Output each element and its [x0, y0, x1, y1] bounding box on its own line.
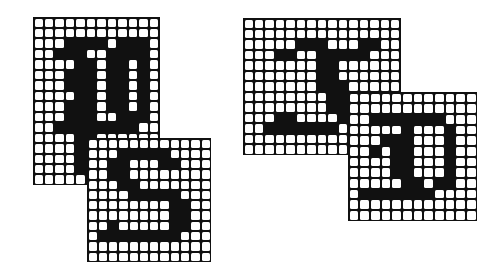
empty-cell: [35, 102, 43, 110]
empty-cell: [307, 114, 315, 122]
empty-cell: [297, 72, 305, 80]
ink-cell: [370, 189, 381, 200]
empty-cell: [99, 253, 107, 261]
empty-cell: [318, 114, 326, 122]
empty-cell: [371, 200, 380, 209]
ink-cell: [107, 91, 117, 101]
ink-cell: [445, 125, 456, 136]
ink-cell: [317, 39, 327, 49]
empty-cell: [265, 72, 273, 80]
empty-cell: [45, 175, 53, 183]
empty-cell: [150, 60, 158, 68]
ink-cell: [138, 112, 148, 122]
empty-cell: [129, 102, 137, 110]
empty-cell: [286, 72, 294, 80]
empty-cell: [35, 144, 43, 152]
empty-cell: [391, 61, 399, 69]
empty-cell: [55, 60, 63, 68]
empty-cell: [255, 72, 263, 80]
empty-cell: [349, 72, 357, 80]
empty-cell: [276, 61, 284, 69]
empty-cell: [391, 51, 399, 59]
empty-cell: [446, 94, 455, 103]
empty-cell: [89, 201, 97, 209]
empty-cell: [119, 222, 127, 230]
ink-cell: [117, 112, 127, 122]
ink-cell: [86, 101, 96, 111]
empty-cell: [45, 155, 53, 163]
empty-cell: [307, 103, 315, 111]
ink-cell: [138, 70, 148, 80]
empty-cell: [297, 145, 305, 153]
empty-cell: [318, 145, 326, 153]
empty-cell: [414, 104, 423, 113]
empty-cell: [76, 175, 84, 183]
ink-cell: [413, 189, 424, 200]
empty-cell: [276, 30, 284, 38]
empty-cell: [307, 145, 315, 153]
empty-cell: [297, 82, 305, 90]
empty-cell: [150, 222, 158, 230]
empty-cell: [255, 135, 263, 143]
empty-cell: [202, 160, 210, 168]
ink-cell: [402, 167, 413, 178]
empty-cell: [139, 123, 147, 131]
ink-cell: [86, 112, 96, 122]
empty-cell: [99, 140, 107, 148]
ink-cell: [75, 154, 85, 164]
empty-cell: [191, 201, 199, 209]
empty-cell: [297, 135, 305, 143]
empty-cell: [150, 19, 158, 27]
ink-cell: [65, 112, 75, 122]
empty-cell: [99, 150, 107, 158]
ink-cell: [138, 91, 148, 101]
ink-cell: [338, 113, 348, 123]
empty-cell: [160, 181, 168, 189]
empty-cell: [35, 175, 43, 183]
empty-cell: [45, 102, 53, 110]
ink-cell: [327, 92, 337, 102]
empty-cell: [297, 61, 305, 69]
ink-cell: [159, 231, 169, 241]
empty-cell: [66, 144, 74, 152]
empty-cell: [55, 29, 63, 37]
ink-cell: [75, 101, 85, 111]
ink-cell: [128, 112, 138, 122]
empty-cell: [139, 29, 147, 37]
ink-cell: [117, 91, 127, 101]
empty-cell: [382, 158, 391, 167]
empty-cell: [318, 93, 326, 101]
empty-cell: [118, 29, 126, 37]
empty-cell: [45, 60, 53, 68]
empty-cell: [424, 126, 433, 135]
empty-cell: [360, 179, 369, 188]
ink-cell: [159, 190, 169, 200]
empty-cell: [255, 40, 263, 48]
empty-cell: [255, 30, 263, 38]
ink-cell: [296, 123, 306, 133]
ink-cell: [275, 123, 285, 133]
empty-cell: [130, 253, 138, 261]
ink-cell: [170, 190, 180, 200]
empty-cell: [89, 242, 97, 250]
empty-cell: [109, 242, 117, 250]
ink-cell: [445, 178, 456, 189]
empty-cell: [130, 211, 138, 219]
empty-cell: [150, 123, 158, 131]
empty-cell: [181, 232, 189, 240]
ink-cell: [180, 200, 190, 210]
empty-cell: [350, 168, 359, 177]
empty-cell: [318, 30, 326, 38]
empty-cell: [35, 60, 43, 68]
empty-cell: [339, 40, 347, 48]
empty-cell: [414, 211, 423, 220]
empty-cell: [360, 147, 369, 156]
empty-cell: [181, 160, 189, 168]
empty-cell: [108, 113, 116, 121]
empty-cell: [424, 168, 433, 177]
empty-cell: [140, 140, 148, 148]
empty-cell: [467, 190, 476, 199]
ink-cell: [107, 49, 117, 59]
empty-cell: [370, 51, 378, 59]
ink-cell: [402, 146, 413, 157]
